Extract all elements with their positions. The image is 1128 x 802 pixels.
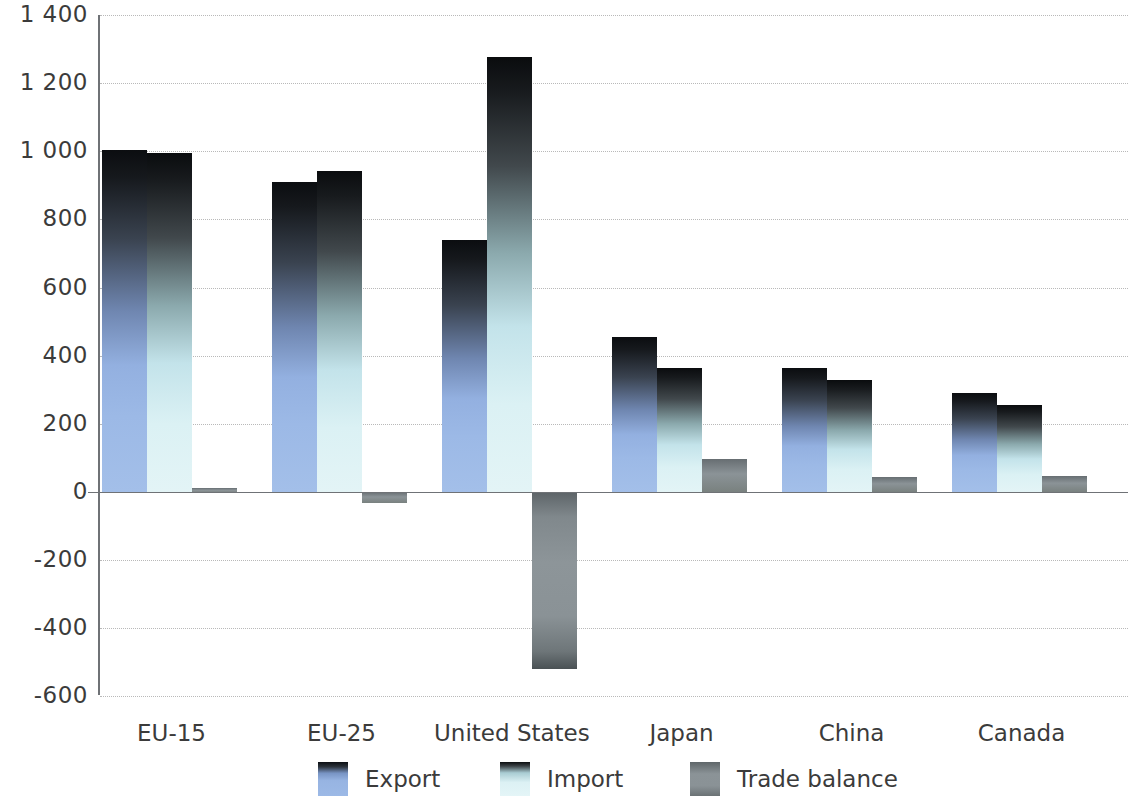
bar-china-trade-balance[interactable] [872,477,917,492]
y-axis-tick-0: 0 [0,478,88,504]
plot-area: 1 400 1 200 1 000 800 600 400 200 0 -200… [100,15,1128,695]
y-axis-tick-1000: 1 000 [0,137,88,163]
legend-item-import[interactable]: Import [500,762,623,796]
bar-china-export[interactable] [782,368,827,492]
y-axis-tick-800: 800 [0,205,88,231]
gridline-1400 [100,15,1128,16]
bar-chart: 1 400 1 200 1 000 800 600 400 200 0 -200… [0,0,1128,802]
gridline-minus-600 [100,696,1128,697]
bar-eu-15-import[interactable] [147,153,192,492]
gridline-minus-200 [100,560,1128,561]
bar-canada-trade-balance[interactable] [1042,476,1087,492]
x-axis-tick-eu-25: EU-25 [264,720,419,746]
y-axis-tick-600: 600 [0,274,88,300]
x-axis-tick-eu-15: EU-15 [94,720,249,746]
bar-united-states-import[interactable] [487,57,532,492]
legend-item-trade-balance[interactable]: Trade balance [690,762,898,796]
gridline-minus-400 [100,628,1128,629]
bar-eu-15-export[interactable] [102,150,147,492]
bar-eu-25-export[interactable] [272,182,317,492]
x-axis-tick-united-states: United States [434,720,589,746]
bar-eu-25-import[interactable] [317,171,362,492]
gridline-1200 [100,83,1128,84]
bar-china-import[interactable] [827,380,872,492]
legend-label-import: Import [547,766,623,792]
chart-legend: Export Import Trade balance [0,762,1128,802]
legend-swatch-export-icon [318,762,348,796]
gridline-1000 [100,151,1128,152]
bar-japan-export[interactable] [612,337,657,492]
y-axis-tick-200: 200 [0,410,88,436]
y-axis-line [98,15,100,695]
legend-label-trade-balance: Trade balance [737,766,898,792]
bar-canada-import[interactable] [997,405,1042,492]
y-axis-tick-400: 400 [0,342,88,368]
y-axis-tick-1200: 1 200 [0,69,88,95]
y-axis-tick-minus-600: -600 [0,682,88,708]
bar-united-states-trade-balance[interactable] [532,492,577,669]
gridline-600 [100,288,1128,289]
x-axis-zero-line [88,492,1128,493]
legend-swatch-trade-balance-icon [690,762,720,796]
y-axis-tick-1400: 1 400 [0,1,88,27]
legend-label-export: Export [365,766,440,792]
y-axis-tick-minus-400: -400 [0,614,88,640]
bar-canada-export[interactable] [952,393,997,492]
x-axis-tick-canada: Canada [944,720,1099,746]
y-axis-tick-minus-200: -200 [0,546,88,572]
bar-eu-25-trade-balance[interactable] [362,492,407,503]
legend-item-export[interactable]: Export [318,762,440,796]
gridline-800 [100,219,1128,220]
bar-japan-trade-balance[interactable] [702,459,747,492]
x-axis-tick-china: China [774,720,929,746]
legend-swatch-import-icon [500,762,530,796]
bar-japan-import[interactable] [657,368,702,492]
x-axis-tick-japan: Japan [604,720,759,746]
bar-united-states-export[interactable] [442,240,487,492]
